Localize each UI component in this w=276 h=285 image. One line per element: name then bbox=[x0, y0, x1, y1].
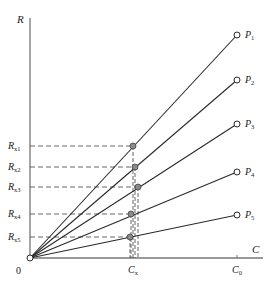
reading-label-x4: Rx4 bbox=[7, 208, 21, 220]
y-axis-label: R bbox=[16, 13, 24, 25]
line-label-p2: P2 bbox=[244, 74, 254, 86]
line-label-p5: P5 bbox=[244, 209, 254, 221]
x-axis-label: C bbox=[252, 243, 260, 255]
line-p5 bbox=[30, 215, 237, 258]
line-label-p3: P3 bbox=[244, 118, 254, 130]
reading-point-3 bbox=[135, 184, 141, 190]
reading-label-x2: Rx2 bbox=[7, 161, 21, 173]
origin-marker bbox=[27, 255, 33, 261]
reading-label-x1: Rx1 bbox=[7, 140, 21, 152]
reading-point-4 bbox=[128, 211, 134, 217]
diagram-content: Rx1Rx2Rx3Rx4Rx5P1P2P3P4P5CxC0 bbox=[7, 29, 255, 276]
reading-label-x5: Rx5 bbox=[7, 231, 21, 243]
line-label-p4: P4 bbox=[244, 166, 255, 178]
reading-point-2 bbox=[132, 164, 138, 170]
origin-label: 0 bbox=[16, 265, 21, 276]
reading-label-x3: Rx3 bbox=[7, 181, 21, 193]
endpoint-marker-p3 bbox=[234, 121, 240, 127]
endpoint-marker-p1 bbox=[234, 32, 240, 38]
calibration-diagram: R C 0 Rx1Rx2Rx3Rx4Rx5P1P2P3P4P5CxC0 bbox=[0, 0, 276, 285]
line-label-p1: P1 bbox=[244, 29, 254, 41]
endpoint-marker-p2 bbox=[234, 77, 240, 83]
reading-point-1 bbox=[130, 143, 136, 149]
endpoint-marker-p4 bbox=[234, 169, 240, 175]
endpoint-marker-p5 bbox=[234, 212, 240, 218]
x-tick-label-0: C0 bbox=[232, 264, 242, 276]
reading-point-5 bbox=[127, 234, 133, 240]
x-tick-label-x: Cx bbox=[128, 264, 139, 276]
